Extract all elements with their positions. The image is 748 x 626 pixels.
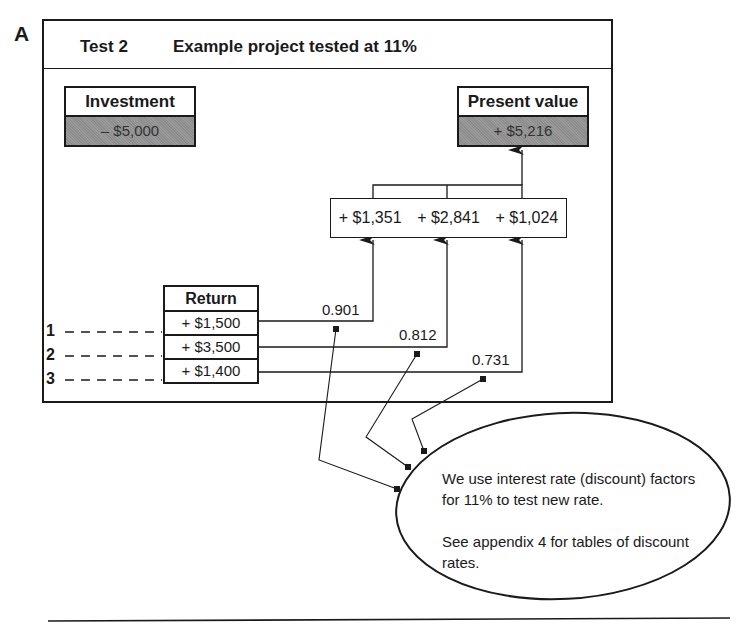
header-divider (42, 68, 611, 69)
discount-factor-2: 0.812 (399, 326, 437, 343)
year-label-3: 3 (46, 370, 55, 388)
present-value-box: Present value + $5,216 (457, 86, 589, 147)
note-line-1: We use interest rate (discount) factors … (442, 468, 712, 510)
investment-box: Investment – $5,000 (64, 86, 196, 147)
investment-label: Investment (66, 88, 194, 117)
return-row-3: + $1,400 (165, 360, 257, 382)
discount-factor-3: 0.731 (472, 351, 510, 368)
test-label: Test 2 (80, 37, 128, 57)
return-row-1: + $1,500 (165, 312, 257, 336)
returns-header: Return (165, 287, 257, 312)
note-line-2: See appendix 4 for tables of discount ra… (442, 531, 712, 573)
discount-factor-1: 0.901 (322, 301, 360, 318)
diagram-title: Example project tested at 11% (173, 37, 417, 57)
panel-label: A (14, 22, 29, 46)
bottom-rule (48, 618, 730, 621)
year-label-2: 2 (46, 346, 55, 364)
present-value-amount: + $5,216 (459, 117, 587, 145)
discounted-value-3: + $1,024 (495, 209, 558, 227)
returns-table: Return + $1,500 + $3,500 + $1,400 (163, 285, 259, 384)
investment-value: – $5,000 (66, 117, 194, 145)
discounted-values-box: + $1,351 + $2,841 + $1,024 (330, 198, 567, 238)
discounted-value-2: + $2,841 (417, 209, 480, 227)
present-value-label: Present value (459, 88, 587, 117)
year-label-1: 1 (46, 322, 55, 340)
return-row-2: + $3,500 (165, 336, 257, 360)
discounted-value-1: + $1,351 (339, 209, 402, 227)
note-text: We use interest rate (discount) factors … (442, 468, 712, 573)
